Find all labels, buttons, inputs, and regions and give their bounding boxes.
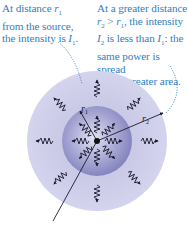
leader-right xyxy=(166,66,177,113)
intensity-diagram: r1 r2 xyxy=(0,0,188,226)
point-source xyxy=(94,138,100,144)
